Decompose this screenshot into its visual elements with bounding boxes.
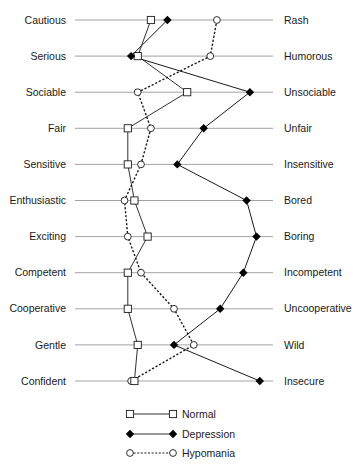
left-pole-label: Fair — [48, 122, 67, 134]
data-point-hypomania — [134, 89, 141, 96]
right-pole-label: Incompetent — [284, 266, 342, 278]
left-pole-label: Cooperative — [9, 302, 66, 314]
data-point-hypomania — [214, 17, 221, 24]
data-point-depression — [216, 305, 224, 313]
data-point-hypomania — [138, 161, 145, 168]
data-point-depression — [252, 232, 260, 240]
left-pole-label: Enthusiastic — [9, 194, 66, 206]
left-pole-label: Competent — [15, 266, 66, 278]
legend-marker — [169, 410, 176, 417]
left-pole-label: Gentle — [35, 339, 66, 351]
right-pole-label: Wild — [284, 339, 305, 351]
data-point-hypomania — [138, 269, 145, 276]
legend-marker — [126, 410, 133, 417]
data-point-depression — [246, 88, 254, 96]
right-pole-label: Uncooperative — [284, 302, 352, 314]
data-point-normal — [124, 125, 131, 132]
data-point-depression — [242, 196, 250, 204]
data-point-hypomania — [121, 197, 128, 204]
legend-marker — [126, 430, 134, 438]
legend-label: Normal — [182, 408, 216, 420]
left-pole-label: Confident — [21, 375, 66, 387]
right-pole-label: Rash — [284, 14, 309, 26]
scale-rows: CautiousRashSeriousHumorousSociableUnsoc… — [9, 14, 351, 387]
data-point-normal — [147, 16, 154, 23]
right-pole-label: Unsociable — [284, 86, 336, 98]
legend-entry-hypomania: Hypomania — [127, 447, 236, 459]
data-point-normal — [124, 269, 131, 276]
data-point-depression — [256, 377, 264, 385]
left-pole-label: Cautious — [25, 14, 66, 26]
data-point-depression — [239, 269, 247, 277]
legend-entry-normal: Normal — [126, 408, 215, 420]
right-pole-label: Humorous — [284, 50, 332, 62]
right-pole-label: Insensitive — [284, 158, 334, 170]
data-point-normal — [131, 197, 138, 204]
right-pole-label: Unfair — [284, 122, 313, 134]
data-point-depression — [170, 341, 178, 349]
legend-marker — [127, 450, 134, 457]
data-point-normal — [124, 161, 131, 168]
right-pole-label: Insecure — [284, 375, 324, 387]
legend-marker — [169, 430, 177, 438]
right-pole-label: Boring — [284, 230, 315, 242]
left-pole-label: Exciting — [29, 230, 66, 242]
legend-entry-depression: Depression — [126, 428, 235, 440]
left-pole-label: Serious — [30, 50, 66, 62]
data-point-hypomania — [207, 53, 214, 60]
data-point-normal — [144, 233, 151, 240]
data-point-depression — [173, 160, 181, 168]
data-point-hypomania — [190, 342, 197, 349]
data-point-normal — [134, 341, 141, 348]
left-pole-label: Sensitive — [23, 158, 66, 170]
data-point-depression — [200, 124, 208, 132]
data-point-hypomania — [171, 305, 178, 312]
legend-label: Depression — [182, 428, 235, 440]
data-point-normal — [131, 377, 138, 384]
data-point-normal — [184, 89, 191, 96]
legend: NormalDepressionHypomania — [126, 408, 235, 459]
data-point-normal — [124, 305, 131, 312]
semantic-differential-chart: CautiousRashSeriousHumorousSociableUnsoc… — [0, 0, 358, 473]
legend-marker — [170, 450, 177, 457]
data-point-hypomania — [148, 125, 155, 132]
right-pole-label: Bored — [284, 194, 312, 206]
left-pole-label: Sociable — [26, 86, 66, 98]
data-point-hypomania — [124, 233, 131, 240]
legend-label: Hypomania — [182, 447, 235, 459]
